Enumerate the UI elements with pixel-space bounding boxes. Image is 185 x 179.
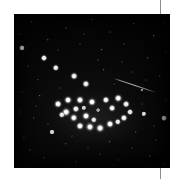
page-canvas bbox=[0, 0, 185, 179]
crop-mark-top bbox=[160, 0, 161, 15]
sky-background-glow bbox=[14, 14, 170, 168]
star-field-image[interactable] bbox=[14, 14, 170, 168]
crop-mark-bottom bbox=[160, 168, 161, 179]
